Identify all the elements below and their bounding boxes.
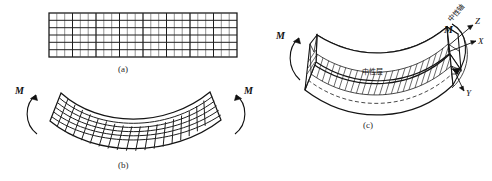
panel-b-moment-left-arrow (27, 95, 37, 134)
panel-c-moment-left-arrow (290, 38, 300, 80)
neutral-layer-label: 中性层 (362, 67, 383, 76)
panel-b-moment-right-label: M (243, 85, 254, 96)
neutral-axis-label: 中性轴 (446, 2, 467, 24)
panel-b-moment-right-arrow (235, 95, 245, 134)
panel-b-moment-left-label: M (14, 85, 25, 96)
panel-a: (a) (49, 13, 237, 74)
panel-c-moment-left-label: M (275, 30, 286, 41)
panel-b-caption: (b) (118, 160, 129, 170)
panel-c: M M Z X Y 中性轴 中性层 (c) (275, 2, 484, 130)
axis-x-label: X (477, 36, 484, 46)
panel-a-caption: (a) (118, 64, 128, 74)
panel-c-caption: (c) (363, 120, 373, 130)
axis-z-label: Z (475, 16, 481, 26)
panel-c-moment-right-label: M (443, 24, 454, 35)
panel-b: M M (b) (14, 85, 254, 170)
axis-y-label: Y (466, 88, 472, 98)
panel-c-neutral-axis-annotation: 中性轴 (446, 2, 467, 24)
pure-bending-figure: (a) (0, 0, 492, 181)
